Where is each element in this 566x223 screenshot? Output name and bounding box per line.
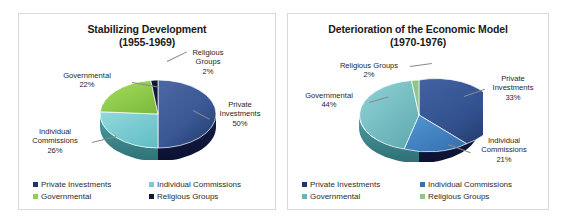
legend-swatch-governmental-left [33, 194, 38, 199]
figure-canvas: Stabilizing Development (1955-1969) [0, 0, 566, 223]
pie-label-private-right: Private Investments 33% [480, 74, 546, 102]
chart-title-left: Stabilizing Development (1955-1969) [19, 23, 275, 48]
pie-label-religious-right: Religious Groups 2% [325, 61, 413, 80]
pie-label-individual-right: Individual Commissions 21% [468, 136, 540, 164]
chart-title-left-main: Stabilizing Development [87, 23, 206, 35]
chart-title-right-main: Deterioration of the Economic Model [328, 23, 508, 35]
legend-item-private-investments-right[interactable]: Private Investments [302, 180, 420, 189]
legend-label-religious-groups-right: Religious Groups [428, 192, 489, 201]
legend-label-private-investments-left: Private Investments [41, 180, 111, 189]
legend-item-individual-commissions-right[interactable]: Individual Commissions [420, 180, 538, 189]
legend-item-governmental-left[interactable]: Governmental [33, 192, 149, 201]
legend-item-religious-groups-left[interactable]: Religious Groups [149, 192, 265, 201]
pie-label-governmental-left: Governmental 22% [49, 71, 125, 90]
chart-panel-stabilizing-development: Stabilizing Development (1955-1969) [18, 13, 276, 210]
pie-label-religious-left: Religious Groups 2% [180, 48, 236, 76]
legend-label-individual-commissions-right: Individual Commissions [428, 180, 512, 189]
legend-right: Private Investments Individual Commissio… [302, 180, 538, 201]
legend-swatch-individual-commissions-left [149, 182, 154, 187]
legend-item-religious-groups-right[interactable]: Religious Groups [420, 192, 538, 201]
legend-label-private-investments-right: Private Investments [310, 180, 380, 189]
pie-label-governmental-right: Governmental 44% [290, 91, 368, 110]
chart-panel-deterioration-economic-model: Deterioration of the Economic Model (197… [287, 13, 549, 210]
chart-title-right: Deterioration of the Economic Model (197… [288, 23, 548, 48]
pie-label-individual-left: Individual Commissions 26% [17, 127, 93, 155]
legend-swatch-private-investments-left [33, 182, 38, 187]
legend-left: Private Investments Individual Commissio… [33, 180, 265, 201]
legend-item-individual-commissions-left[interactable]: Individual Commissions [149, 180, 265, 189]
chart-title-right-sub: (1970-1976) [288, 36, 548, 49]
legend-swatch-individual-commissions-right [420, 182, 425, 187]
legend-label-religious-groups-left: Religious Groups [157, 192, 218, 201]
legend-swatch-religious-groups-left [149, 194, 154, 199]
legend-label-individual-commissions-left: Individual Commissions [157, 180, 241, 189]
legend-label-governmental-left: Governmental [41, 192, 91, 201]
legend-item-private-investments-left[interactable]: Private Investments [33, 180, 149, 189]
legend-swatch-private-investments-right [302, 182, 307, 187]
pie-label-private-left: Private Investments 50% [208, 100, 272, 128]
chart-title-left-sub: (1955-1969) [19, 36, 275, 49]
legend-label-governmental-right: Governmental [310, 192, 360, 201]
legend-swatch-religious-groups-right [420, 194, 425, 199]
legend-swatch-governmental-right [302, 194, 307, 199]
legend-item-governmental-right[interactable]: Governmental [302, 192, 420, 201]
